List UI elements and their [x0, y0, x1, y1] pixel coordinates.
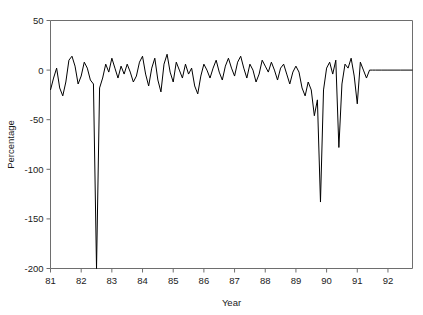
- x-tick-label: 89: [291, 275, 302, 286]
- x-tick-label: 81: [45, 275, 56, 286]
- y-tick-label: -200: [24, 263, 43, 274]
- y-tick-label: 0: [38, 65, 43, 76]
- x-tick-label: 88: [260, 275, 271, 286]
- x-tick-label: 92: [383, 275, 394, 286]
- y-tick-label: -100: [24, 164, 43, 175]
- y-tick-label: -50: [30, 114, 44, 125]
- x-tick-label: 90: [321, 275, 332, 286]
- x-axis-title: Year: [222, 297, 241, 308]
- series-line-percentage: [51, 54, 413, 268]
- x-tick-label: 82: [76, 275, 87, 286]
- x-tick-label: 87: [229, 275, 240, 286]
- x-tick-label: 83: [107, 275, 118, 286]
- x-tick-label: 84: [137, 275, 148, 286]
- y-tick-label: 50: [33, 15, 44, 26]
- y-tick-labels: 500-50-100-150-200: [24, 15, 43, 274]
- x-tick-label: 91: [352, 275, 363, 286]
- y-tick-label: -150: [24, 213, 43, 224]
- axes-group: [51, 21, 413, 269]
- x-tick-labels: 818283848586878889909192: [45, 275, 393, 286]
- tick-marks-group: [47, 21, 388, 273]
- line-chart-plot: 500-50-100-150-200 818283848586878889909…: [0, 0, 423, 315]
- x-tick-label: 86: [199, 275, 210, 286]
- y-axis-title: Percentage: [5, 120, 16, 169]
- chart-figure: 500-50-100-150-200 818283848586878889909…: [0, 0, 423, 315]
- x-tick-label: 85: [168, 275, 179, 286]
